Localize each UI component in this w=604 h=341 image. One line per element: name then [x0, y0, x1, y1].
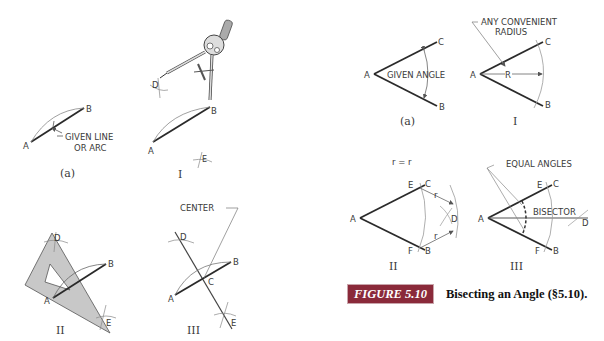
label-B: B	[439, 102, 445, 112]
right-step-I: A R C B ANY CONVENIENT RADIUS I	[470, 17, 558, 128]
label-B: B	[425, 246, 431, 256]
label-F: F	[535, 246, 540, 256]
step-label: I	[178, 168, 182, 181]
note-or-arc: OR ARC	[74, 143, 107, 153]
label-A: A	[478, 214, 484, 224]
step-label: II	[56, 324, 65, 337]
label-B: B	[108, 259, 114, 269]
label-D: D	[54, 233, 61, 243]
right-step-II: A E C F B D r r r = r II	[350, 157, 458, 273]
left-step-I: A B D E I	[148, 19, 233, 181]
left-step-III: D A B C E CENTER III	[168, 203, 239, 337]
note-given-line: GIVEN LINE	[65, 132, 113, 142]
label-B: B	[233, 257, 239, 267]
label-C: C	[208, 277, 214, 287]
label-E: E	[231, 318, 236, 328]
note-any-convenient: ANY CONVENIENT	[481, 17, 558, 27]
label-F: F	[408, 246, 413, 256]
label-D: D	[152, 80, 159, 90]
label-B: B	[553, 246, 559, 256]
label-B: B	[545, 100, 551, 110]
compass-icon	[160, 19, 233, 100]
label-A: A	[168, 294, 174, 304]
label-B: B	[86, 104, 92, 114]
label-A: A	[364, 70, 370, 80]
equation-r-equals-r: r = r	[392, 157, 412, 167]
step-label: III	[187, 324, 200, 337]
label-D: D	[451, 214, 458, 224]
label-D: D	[180, 232, 187, 242]
right-step-III: A E C F B D BISECTOR EQUAL ANGLES III	[478, 159, 589, 273]
note-center: CENTER	[180, 203, 214, 213]
label-C: C	[553, 179, 559, 189]
step-label: III	[510, 260, 523, 273]
note-radius: RADIUS	[495, 27, 527, 37]
bisector-label: BISECTOR	[533, 207, 576, 217]
label-C: C	[438, 37, 444, 47]
step-label: I	[513, 115, 517, 128]
right-step-a: A C B GIVEN ANGLE (a)	[364, 37, 445, 128]
step-label: II	[389, 260, 398, 273]
figure-number-badge: FIGURE 5.10	[347, 284, 434, 304]
label-E: E	[202, 155, 207, 164]
label-D: D	[582, 218, 589, 228]
step-label: (a)	[400, 115, 415, 128]
label-A: A	[470, 70, 476, 80]
label-r-lower: r	[434, 231, 438, 241]
label-A: A	[44, 296, 50, 306]
figure-title: Bisecting an Angle (§5.10).	[446, 287, 587, 302]
label-C: C	[545, 37, 551, 47]
label-R: R	[505, 70, 511, 80]
step-label: (a)	[60, 167, 75, 180]
label-A: A	[148, 146, 154, 156]
label-A: A	[23, 141, 29, 151]
note-given-angle: GIVEN ANGLE	[387, 70, 445, 80]
left-step-II: A B D E II	[25, 232, 116, 337]
label-C: C	[425, 179, 431, 189]
label-E: E	[408, 180, 413, 190]
left-step-a: A B GIVEN LINE OR ARC (a)	[23, 104, 113, 180]
label-B: B	[211, 106, 217, 116]
label-r-upper: r	[434, 190, 438, 200]
label-E: E	[537, 180, 542, 190]
label-E: E	[106, 318, 111, 328]
figure-caption: FIGURE 5.10 Bisecting an Angle (§5.10).	[347, 285, 587, 303]
label-A: A	[350, 214, 356, 224]
note-equal-angles: EQUAL ANGLES	[506, 159, 572, 169]
